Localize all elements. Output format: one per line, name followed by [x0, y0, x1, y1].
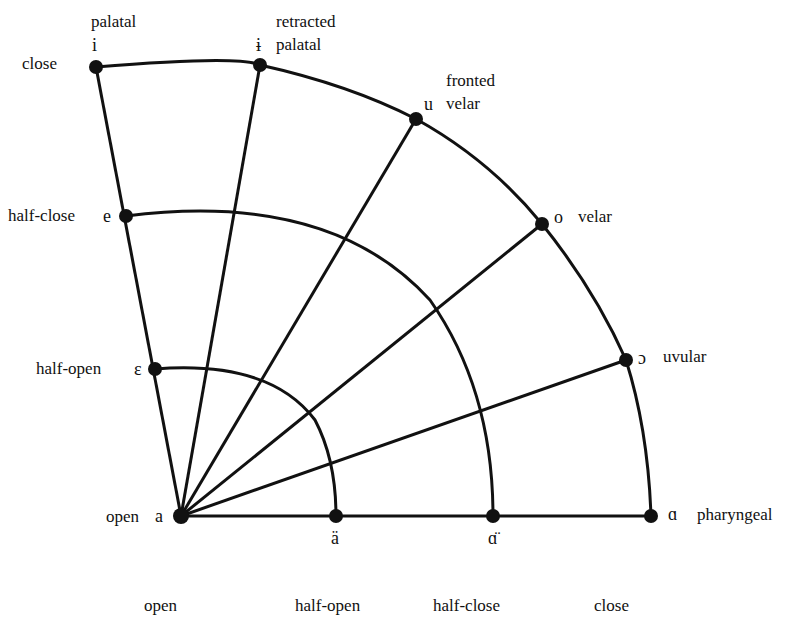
point-alpha-diaeresis [486, 509, 500, 523]
symbol-i: i [92, 35, 97, 55]
label-pharyngeal: pharyngeal [697, 505, 773, 525]
column-half-close: half-close (wide approximant) [433, 548, 525, 626]
symbol-center-a: a [155, 506, 163, 526]
point-i [89, 60, 103, 74]
symbol-pharyngeal-a: ɑ [668, 504, 677, 524]
column-half-open: half-open (narrow resonant) [295, 548, 360, 626]
point-u [409, 112, 423, 126]
label-close: close [22, 54, 57, 74]
symbol-a-diaeresis: ä [331, 528, 339, 548]
radial-open-o [181, 360, 626, 516]
symbol-open-o: ɔ [638, 348, 646, 368]
radial-i [96, 67, 181, 516]
symbol-epsilon: ɛ [134, 359, 142, 379]
label-uvular: uvular [663, 347, 706, 367]
point-o [535, 217, 549, 231]
label-retracted-palatal: palatal [276, 35, 321, 55]
radial-o [181, 224, 542, 516]
label-velar: velar [578, 207, 612, 227]
point-e [119, 209, 133, 223]
label-fronted: fronted [446, 71, 495, 91]
label-half-open: half-open [36, 359, 101, 379]
point-open-o [619, 353, 633, 367]
point-retracted-i [253, 58, 267, 72]
label-retracted: retracted [276, 12, 335, 32]
label-half-close: half-close [8, 206, 75, 226]
symbol-alpha-diaeresis: ɑ̈ [488, 528, 497, 548]
symbol-e: e [103, 206, 111, 226]
column-close: close (narrow approximant) [594, 548, 686, 626]
symbol-retracted-i: ɨ [256, 35, 261, 55]
vowel-quadrant-diagram [0, 0, 802, 626]
symbol-u: u [424, 94, 433, 114]
symbol-o: o [554, 207, 563, 227]
point-a-diaeresis [329, 509, 343, 523]
label-fronted-velar: velar [446, 94, 480, 114]
column-open: open (wide resonant) [144, 548, 207, 626]
point-center-a [173, 508, 189, 524]
point-pharyngeal-a [644, 509, 658, 523]
label-open: open [106, 507, 139, 527]
label-palatal: palatal [91, 12, 136, 32]
point-epsilon [148, 362, 162, 376]
